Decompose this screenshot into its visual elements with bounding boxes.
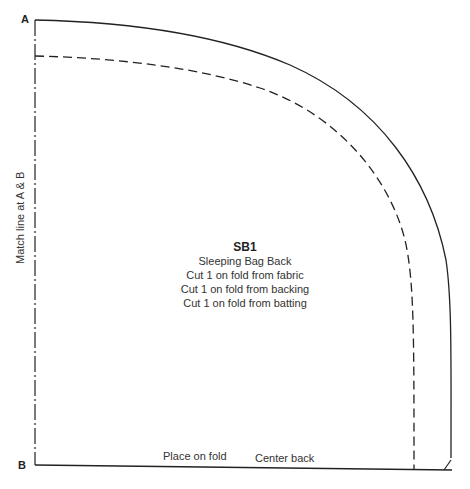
piece-info: SB1 Sleeping Bag Back Cut 1 on fold from… — [175, 240, 315, 310]
instruction-batting: Cut 1 on fold from batting — [175, 296, 315, 310]
piece-name: Sleeping Bag Back — [175, 254, 315, 268]
corner-notch — [444, 460, 451, 470]
match-line-label: Match line at A & B — [14, 172, 26, 264]
place-on-fold-label: Place on fold — [163, 450, 227, 462]
corner-label-b: B — [18, 459, 26, 471]
corner-label-a: A — [21, 13, 29, 25]
center-back-label: Center back — [255, 452, 314, 464]
cutting-line — [35, 20, 451, 458]
fold-line — [35, 465, 452, 470]
instruction-fabric: Cut 1 on fold from fabric — [175, 268, 315, 282]
instruction-backing: Cut 1 on fold from backing — [175, 282, 315, 296]
piece-code: SB1 — [175, 240, 315, 254]
